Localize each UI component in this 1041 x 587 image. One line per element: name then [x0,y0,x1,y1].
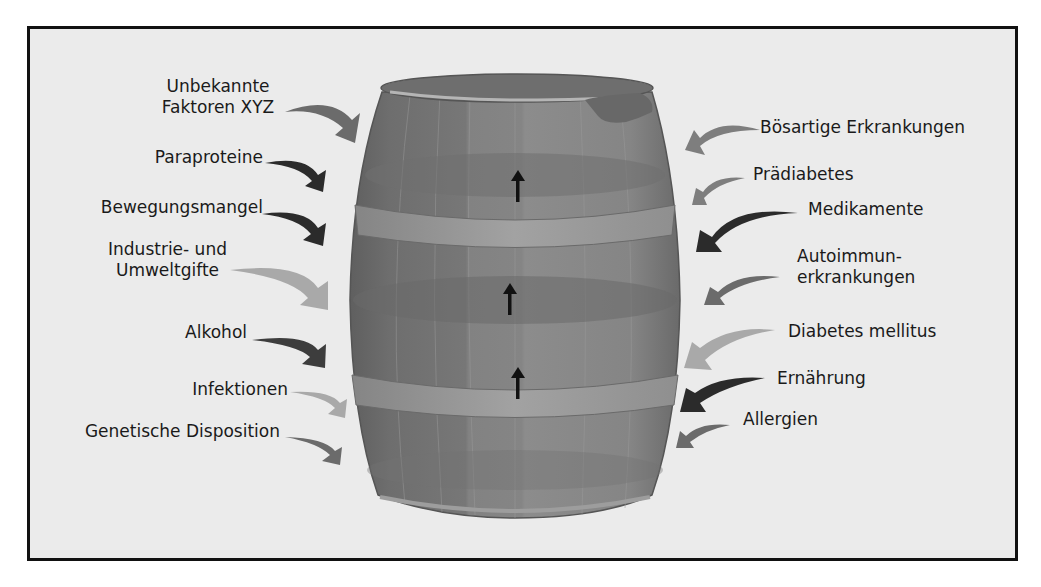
label-line: Industrie- und [80,239,255,260]
curved-arrow-icon [692,178,745,205]
label-unknown-factors: Unbekannte Faktoren XYZ [148,76,288,118]
label-malignant-diseases: Bösartige Erkrankungen [760,117,965,138]
curved-arrow-icon [265,161,326,192]
label-genetic-disposition: Genetische Disposition [40,421,280,442]
curved-arrow-icon [285,105,360,143]
label-prediabetes: Prädiabetes [753,164,854,185]
label-infections: Infektionen [100,379,288,400]
label-nutrition: Ernährung [777,368,866,389]
label-line: Umweltgifte [80,260,255,281]
label-line: Faktoren XYZ [148,97,288,118]
label-lack-of-exercise: Bewegungsmangel [60,197,263,218]
curved-arrow-icon [685,126,760,156]
label-autoimmune-diseases: Autoimmun- erkrankungen [797,246,915,288]
barrel [350,74,680,518]
curved-arrow-icon [290,392,347,418]
curved-arrow-icon [285,437,342,465]
label-alcohol: Alkohol [100,322,247,343]
label-paraproteins: Paraproteine [100,147,263,168]
label-line: Autoimmun- [797,246,915,267]
curved-arrow-icon [684,329,775,370]
curved-arrow-icon [704,276,780,305]
label-diabetes-mellitus: Diabetes mellitus [788,321,936,342]
label-line: Unbekannte [148,76,288,97]
label-industrial-toxins: Industrie- und Umweltgifte [80,239,255,281]
curved-arrow-icon [252,338,326,368]
label-line: erkrankungen [797,267,915,288]
curved-arrow-icon [696,211,798,252]
curved-arrow-icon [680,378,765,412]
curved-arrow-icon [262,213,326,246]
label-allergies: Allergien [743,409,818,430]
curved-arrow-icon [676,424,730,448]
label-medication: Medikamente [808,199,924,220]
